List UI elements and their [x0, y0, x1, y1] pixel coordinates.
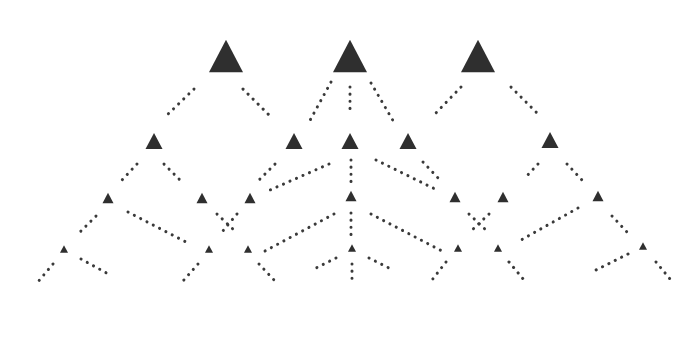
tree-diagram — [0, 0, 680, 360]
background — [0, 0, 680, 360]
